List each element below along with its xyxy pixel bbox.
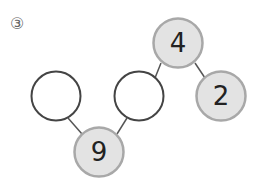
number-bond-diagram: 4 2 9 bbox=[0, 0, 254, 187]
node-middle-empty[interactable] bbox=[115, 72, 164, 121]
edge-top-right bbox=[195, 63, 205, 78]
node-right-value: 2 bbox=[213, 81, 230, 111]
edge-top-middle bbox=[155, 63, 161, 78]
edge-bottom-left bbox=[68, 118, 82, 134]
node-top-value: 4 bbox=[170, 28, 187, 58]
node-right: 2 bbox=[197, 72, 246, 121]
node-left-empty[interactable] bbox=[32, 72, 81, 121]
node-top: 4 bbox=[154, 19, 203, 68]
edge-bottom-middle bbox=[117, 118, 127, 134]
node-bottom: 9 bbox=[75, 128, 124, 177]
node-bottom-value: 9 bbox=[91, 137, 108, 167]
